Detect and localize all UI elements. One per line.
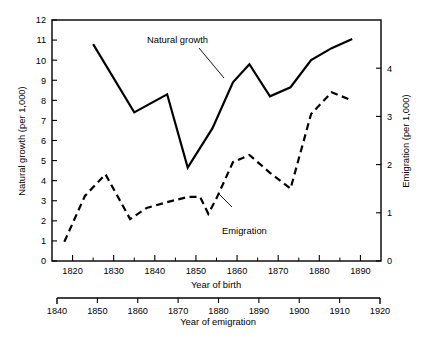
right-tick-label: 3 xyxy=(387,112,392,122)
left-tick-label: 9 xyxy=(41,76,46,86)
annotation-natural-growth: Natural growth xyxy=(147,34,208,45)
secondary-tick-label: 1870 xyxy=(168,306,188,316)
left-tick-label: 6 xyxy=(41,136,46,146)
bottom-tick-label: 1880 xyxy=(309,266,329,276)
left-tick-label: 2 xyxy=(41,216,46,226)
secondary-tick-label: 1920 xyxy=(370,306,390,316)
secondary-tick-label: 1910 xyxy=(329,306,349,316)
secondary-tick-label: 1840 xyxy=(47,306,67,316)
left-tick-label: 10 xyxy=(36,56,46,66)
left-tick-label: 11 xyxy=(36,35,46,45)
bottom-tick-label: 1890 xyxy=(350,266,370,276)
right-tick-label: 1 xyxy=(387,208,392,218)
bottom-tick-label: 1840 xyxy=(145,266,165,276)
secondary-axis-tick-labels: 184018501860187018801890190019101920 xyxy=(47,306,390,316)
bottom-tick-label: 1830 xyxy=(103,266,123,276)
left-tick-label: 5 xyxy=(41,156,46,166)
chart-background xyxy=(0,0,426,342)
right-tick-label: 0 xyxy=(387,256,392,266)
secondary-tick-label: 1900 xyxy=(289,306,309,316)
bottom-tick-label: 1860 xyxy=(227,266,247,276)
y-axis-title: Natural growth (per 1,000) xyxy=(16,86,27,195)
x-axis-title: Year of birth xyxy=(191,279,241,290)
secondary-tick-label: 1890 xyxy=(249,306,269,316)
x-axis-secondary-title: Year of emigration xyxy=(180,316,256,327)
left-tick-label: 1 xyxy=(41,236,46,246)
y-axis-secondary-title: Emigration (per 1,000) xyxy=(400,94,411,187)
bottom-tick-label: 1820 xyxy=(62,266,82,276)
secondary-tick-label: 1850 xyxy=(87,306,107,316)
left-tick-label: 0 xyxy=(41,256,46,266)
left-tick-label: 3 xyxy=(41,196,46,206)
left-tick-label: 4 xyxy=(41,176,46,186)
right-tick-label: 2 xyxy=(387,160,392,170)
left-tick-label: 7 xyxy=(41,116,46,126)
right-tick-label: 4 xyxy=(387,64,392,74)
left-tick-label: 12 xyxy=(36,15,46,25)
secondary-tick-label: 1880 xyxy=(208,306,228,316)
annotation-emigration: Emigration xyxy=(222,225,267,236)
secondary-tick-label: 1860 xyxy=(128,306,148,316)
bottom-tick-label: 1850 xyxy=(186,266,206,276)
chart-figure: 0123456789101112 01234 18201830184018501… xyxy=(0,0,426,342)
chart-canvas: 0123456789101112 01234 18201830184018501… xyxy=(0,0,426,342)
left-tick-label: 8 xyxy=(41,96,46,106)
bottom-tick-label: 1870 xyxy=(268,266,288,276)
